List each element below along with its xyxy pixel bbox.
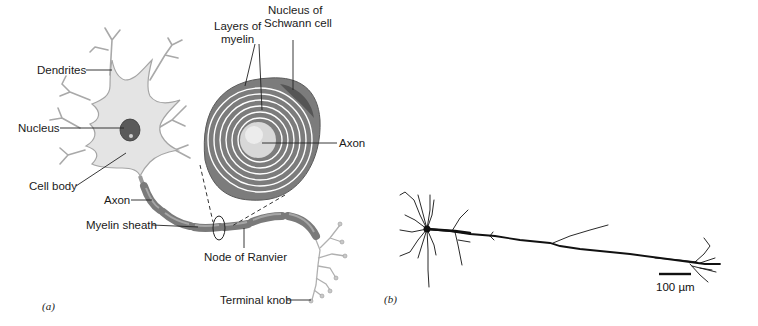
label-layers-of-myelin-1: Layers of — [214, 20, 262, 32]
label-axon-cross-section: Axon — [339, 137, 365, 149]
label-nucleus: Nucleus — [18, 122, 60, 134]
label-layers-of-myelin-2: myelin — [221, 33, 254, 45]
label-terminal-knob: Terminal knob — [220, 294, 292, 306]
label-node-of-ranvier: Node of Ranvier — [204, 251, 287, 263]
nucleolus — [129, 134, 133, 138]
figure: Dendrites Nucleus Cell body Axon Myelin … — [0, 0, 758, 326]
scale-bar-label: 100 µm — [656, 281, 695, 293]
label-nucleus-of-schwann-1: Nucleus of — [268, 4, 323, 16]
label-axon: Axon — [104, 194, 130, 206]
neuron-illustration — [50, 28, 347, 303]
panel-label-b: (b) — [384, 293, 397, 306]
cell-body-shape — [86, 60, 180, 176]
label-dendrites: Dendrites — [37, 64, 86, 76]
label-nucleus-of-schwann-2: Schwann cell — [264, 17, 332, 29]
myelin-cross-section — [204, 78, 320, 200]
neuron-diagram: Dendrites Nucleus Cell body Axon Myelin … — [0, 0, 758, 326]
label-cell-body: Cell body — [29, 180, 77, 192]
panel-label-a: (a) — [42, 300, 55, 313]
neuron-tracing — [400, 192, 720, 287]
label-myelin-sheath: Myelin sheath — [86, 219, 157, 231]
